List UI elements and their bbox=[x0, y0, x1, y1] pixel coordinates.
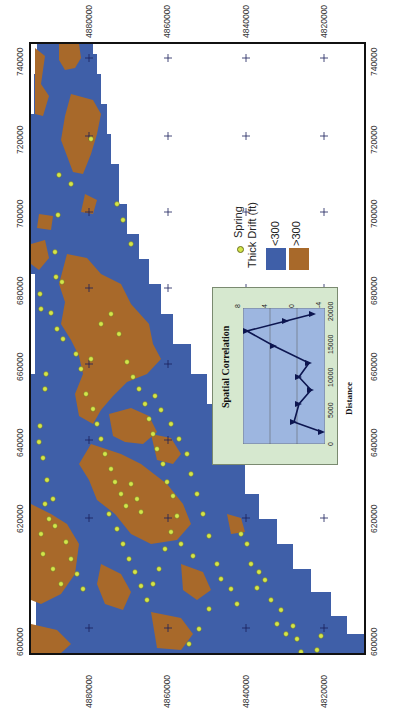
easting-tick-left-6: 640000 bbox=[15, 429, 25, 457]
northing-tick-top-4: 4820000 bbox=[319, 5, 329, 38]
chart-y-tick-4: 4 bbox=[261, 304, 268, 308]
legend-label-gt-300: >300 bbox=[290, 221, 302, 246]
legend-label-lt-300: <300 bbox=[269, 221, 281, 246]
easting-tick-left-3: 700000 bbox=[15, 200, 25, 228]
chart-x-tick-10000: 10000 bbox=[327, 368, 334, 387]
northing-tick-bottom-2: 4860000 bbox=[162, 675, 172, 708]
chart-x-tick-0: 0 bbox=[327, 442, 334, 446]
easting-tick-right-7: 620000 bbox=[369, 505, 379, 533]
chart-plot-area bbox=[243, 308, 325, 444]
northing-tick-bottom-3: 4840000 bbox=[241, 675, 251, 708]
northing-tick-bottom-4: 4820000 bbox=[319, 675, 329, 708]
easting-tick-right-5: 660000 bbox=[369, 353, 379, 381]
legend: Spring Thick Drift (ft) <300 >300 bbox=[232, 150, 296, 268]
northing-tick-top-1: 4880000 bbox=[84, 5, 94, 38]
chart-y-tick-0: 0 bbox=[288, 304, 295, 308]
easting-tick-left-7: 620000 bbox=[15, 505, 25, 533]
spring-legend-label: Spring bbox=[232, 206, 244, 238]
northing-tick-top-2: 4860000 bbox=[162, 5, 172, 38]
northing-tick-bottom-1: 4880000 bbox=[84, 675, 94, 708]
easting-tick-left-2: 720000 bbox=[15, 126, 25, 154]
legend-swatch-gt-300 bbox=[289, 248, 309, 270]
legend-swatch-lt-300 bbox=[266, 248, 286, 270]
easting-tick-left-4: 680000 bbox=[15, 277, 25, 305]
chart-y-tick-neg4: -4 bbox=[315, 302, 322, 308]
easting-tick-left-8: 600000 bbox=[15, 628, 25, 656]
easting-tick-left-1: 740000 bbox=[15, 48, 25, 76]
easting-tick-right-2: 720000 bbox=[369, 126, 379, 154]
chart-x-tick-5000: 5000 bbox=[327, 402, 334, 418]
chart-xlabel: Distance bbox=[344, 382, 354, 415]
spring-legend-marker bbox=[237, 246, 244, 253]
easting-tick-left-5: 660000 bbox=[15, 353, 25, 381]
spatial-correlation-chart: Spatial Correlation 8 4 0 -4 0 5000 1000… bbox=[212, 287, 338, 465]
easting-tick-right-6: 640000 bbox=[369, 429, 379, 457]
chart-y-tick-8: 8 bbox=[234, 304, 241, 308]
northing-tick-top-3: 4840000 bbox=[241, 5, 251, 38]
easting-tick-right-4: 680000 bbox=[369, 277, 379, 305]
easting-tick-right-1: 740000 bbox=[369, 48, 379, 76]
easting-tick-right-3: 700000 bbox=[369, 200, 379, 228]
easting-tick-right-8: 600000 bbox=[369, 628, 379, 656]
chart-title: Spatial Correlation bbox=[220, 326, 231, 408]
drift-legend-title: Thick Drift (ft) bbox=[246, 202, 258, 268]
chart-x-tick-15000: 15000 bbox=[327, 335, 334, 354]
chart-x-tick-20000: 20000 bbox=[327, 302, 334, 321]
